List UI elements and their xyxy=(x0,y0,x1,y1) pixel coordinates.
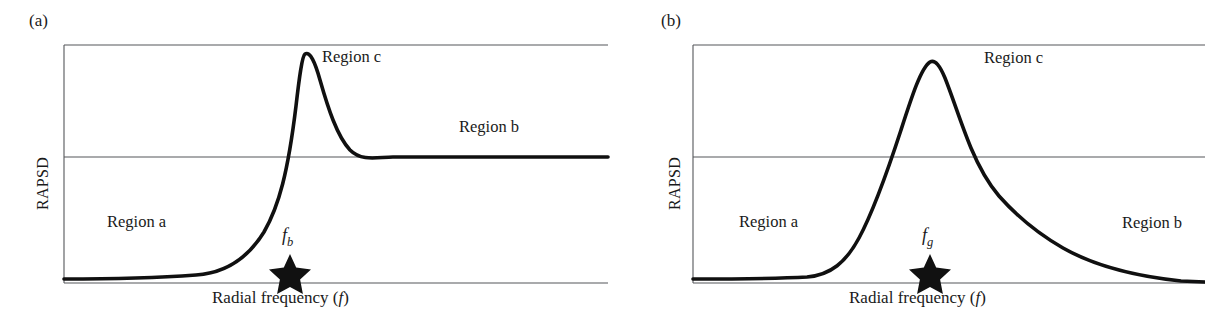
panel-b-rapsd-curve xyxy=(693,61,1205,282)
panel-a-rapsd-curve xyxy=(64,54,608,279)
panel-b-region-b-label: Region b xyxy=(1122,213,1182,233)
panel-b-marker-sub: g xyxy=(927,235,933,249)
panel-b-marker-label: fg xyxy=(922,225,933,250)
panel-a-plot xyxy=(0,0,602,326)
panel-a-x-axis-close: ) xyxy=(343,288,349,307)
panel-b-region-c-label: Region c xyxy=(984,48,1043,68)
panel-b-x-axis-text: Radial frequency ( xyxy=(849,288,976,307)
rapsd-figure: (a) RAPSD Region a Region c Region b fb … xyxy=(0,0,1205,326)
panel-a-marker-label: fb xyxy=(282,225,293,250)
panel-a-region-b-label: Region b xyxy=(459,117,519,137)
panel-a-x-axis-text: Radial frequency ( xyxy=(212,288,339,307)
panel-b-plot xyxy=(603,0,1205,326)
panel-a: (a) RAPSD Region a Region c Region b fb … xyxy=(0,0,602,326)
panel-b-x-axis-close: ) xyxy=(980,288,986,307)
panel-a-region-a-label: Region a xyxy=(107,212,166,232)
panel-b: (b) RAPSD Region a Region c Region b fg … xyxy=(603,0,1205,326)
panel-b-region-a-label: Region a xyxy=(739,212,798,232)
panel-a-x-axis-title: Radial frequency (f) xyxy=(212,288,349,308)
panel-b-x-axis-title: Radial frequency (f) xyxy=(849,288,986,308)
panel-a-region-c-label: Region c xyxy=(322,47,381,67)
panel-a-marker-sub: b xyxy=(287,235,293,249)
